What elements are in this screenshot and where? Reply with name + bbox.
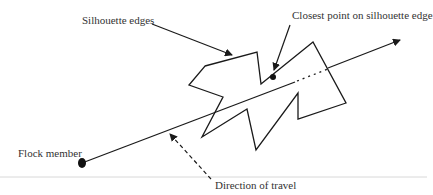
flock-member-dot [78, 158, 86, 168]
travel-path-arrow [328, 40, 400, 68]
travel-path-dotted [297, 69, 328, 81]
silhouette-pointer-arrow [152, 24, 232, 55]
label-silhouette-edges: Silhouette edges [82, 15, 154, 26]
label-direction-of-travel: Direction of travel [215, 180, 296, 191]
label-flock-member: Flock member [18, 148, 82, 159]
label-closest-point: Closest point on silhouette edge [292, 10, 433, 21]
direction-pointer-arrow [170, 134, 211, 179]
travel-path-solid [82, 82, 295, 163]
closest-point-dot [270, 74, 276, 80]
obstacle-silhouette [189, 42, 346, 150]
